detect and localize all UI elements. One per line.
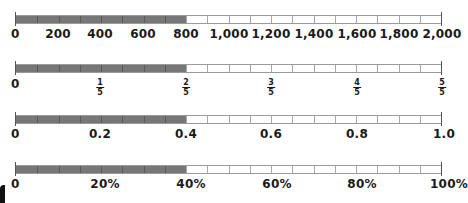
segment-divider [207,116,208,123]
tick-label: 0 [11,177,20,191]
left-endcap [15,61,16,75]
denominator: 5 [353,88,361,97]
tick-label: 0.4 [175,127,197,141]
segment-divider [399,65,400,72]
segment-divider [292,65,293,72]
segment-divider [122,16,123,23]
edge-artifact [0,185,5,203]
segment-divider [314,116,315,123]
segment-divider [399,166,400,173]
tick-label: 1,400 [295,27,334,41]
tick-label: 800 [173,27,199,41]
segment-divider [314,166,315,173]
segment-divider [207,166,208,173]
segment-divider [420,116,421,123]
right-endcap [441,61,442,75]
segment-divider [165,116,166,123]
number-line-whole: 0 200 400 600 800 1,000 1,200 1,400 1,60… [0,15,468,61]
right-endcap [441,162,442,176]
denominator: 5 [267,88,275,97]
segment-divider [377,166,378,173]
number-line-percents: 0 20% 40% 60% 80% 100% [0,165,468,203]
tick-label: 0 [11,77,20,91]
number-line-fractions: 0 1 5 2 5 3 5 4 5 5 5 [0,64,468,110]
segment-divider [271,166,272,173]
fraction-label: 3 5 [267,78,275,97]
tick-label: 0.8 [346,127,368,141]
segment-divider [144,166,145,173]
segment-divider [314,16,315,23]
fraction-label: 1 5 [96,78,104,97]
segment-divider [59,166,60,173]
segment-divider [335,65,336,72]
segment-divider [399,116,400,123]
segment-divider [207,65,208,72]
left-endcap [15,12,16,26]
bar-percents [15,165,442,174]
tick-label: 1,800 [380,27,419,41]
tick-label: 400 [87,27,113,41]
segment-divider [122,65,123,72]
segment-divider [101,65,102,72]
segment-divider [399,16,400,23]
segment-divider [80,116,81,123]
segment-divider [80,166,81,173]
tick-label: 0 [11,127,20,141]
tick-label: 1,000 [210,27,249,41]
segment-divider [335,166,336,173]
segment-divider [229,16,230,23]
segment-divider [101,166,102,173]
denominator: 5 [182,88,190,97]
denominator: 5 [96,88,104,97]
fraction-label: 5 5 [438,78,446,97]
tick-label: 1,200 [252,27,291,41]
segment-divider [186,116,187,123]
segment-divider [165,16,166,23]
right-endcap [441,112,442,126]
tick-label: 40% [176,177,205,191]
segment-divider [59,65,60,72]
segment-divider [420,16,421,23]
fraction-label: 2 5 [182,78,190,97]
segment-divider [122,116,123,123]
tick-label: 80% [347,177,376,191]
tick-label: 0 [11,27,20,41]
segment-divider [186,65,187,72]
numerator: 2 [182,78,190,88]
segment-divider [356,16,357,23]
bar-fractions [15,64,442,73]
segment-divider [229,116,230,123]
segment-divider [420,65,421,72]
segment-divider [250,65,251,72]
segment-divider [207,16,208,23]
tick-label: 20% [90,177,119,191]
segment-divider [59,16,60,23]
segment-divider [271,65,272,72]
segment-divider [122,166,123,173]
tick-label: 1,600 [338,27,377,41]
segment-divider [186,16,187,23]
segment-divider [250,166,251,173]
segment-divider [37,65,38,72]
left-endcap [15,162,16,176]
tick-label: 0.6 [260,127,282,141]
numerator: 1 [96,78,104,88]
numerator: 5 [438,78,446,88]
segment-divider [144,116,145,123]
segment-divider [186,166,187,173]
left-endcap [15,112,16,126]
segment-divider [37,16,38,23]
tick-label: 2,000 [423,27,462,41]
segment-divider [144,65,145,72]
segment-divider [292,166,293,173]
numerator: 4 [353,78,361,88]
numerator: 3 [267,78,275,88]
segment-divider [80,65,81,72]
fraction-label: 4 5 [353,78,361,97]
segment-divider [80,16,81,23]
segment-divider [37,166,38,173]
segment-divider [335,116,336,123]
right-endcap [441,12,442,26]
number-line-decimals: 0 0.2 0.4 0.6 0.8 1.0 [0,115,468,161]
tick-label: 0.2 [89,127,111,141]
